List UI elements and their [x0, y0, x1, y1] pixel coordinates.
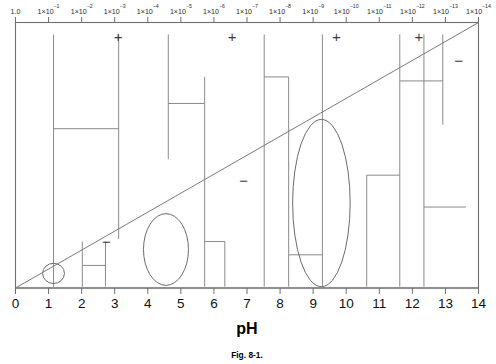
top-axis-tick-label: 1×10−14 [466, 3, 491, 16]
sign-mark: + [228, 28, 237, 45]
sign-mark: + [332, 28, 341, 45]
chart-canvas: 1.01×10−11×10−21×10−31×10−41×10−51×10−61… [0, 0, 496, 364]
bottom-axis-tick-label: 1 [45, 296, 53, 311]
bottom-axis-tick-label: 11 [372, 296, 386, 311]
top-axis-tick-label: 1×10−13 [433, 3, 458, 16]
bottom-axis-tick-label: 9 [309, 296, 317, 311]
top-axis-tick-label: 1×10−10 [334, 3, 359, 16]
pOH-reference-line [16, 23, 479, 289]
bottom-axis-tick-label: 0 [12, 296, 20, 311]
top-axis-tick-label: 1×10−7 [236, 3, 258, 16]
top-axis-tick-label: 1×10−1 [38, 3, 60, 16]
bottom-axis-tick-label: 4 [144, 296, 152, 311]
top-axis-tick-label: 1×10−5 [170, 3, 192, 16]
bottom-axis-tick-label: 13 [438, 296, 453, 311]
ph-scale-figure: 1.01×10−11×10−21×10−31×10−41×10−51×10−61… [0, 0, 496, 364]
blob-shapes [43, 119, 351, 286]
top-axis-tick-label: 1×10−11 [367, 3, 392, 16]
top-axis-tick-label: 1×10−4 [137, 3, 159, 16]
x-axis-title: pH [236, 320, 257, 337]
bottom-axis-tick-label: 7 [243, 296, 251, 311]
bottom-axis-tick-label: 6 [210, 296, 218, 311]
bottom-axis-tick-label: 8 [276, 296, 284, 311]
sign-mark: − [239, 172, 248, 189]
top-axis: 1.01×10−11×10−21×10−31×10−41×10−51×10−61… [11, 3, 491, 23]
bottom-axis-tick-label: 5 [177, 296, 185, 311]
bottom-axis-tick-label: 3 [111, 296, 119, 311]
top-axis-tick-label: 1.0 [11, 8, 21, 16]
bottom-axis-tick-label: 12 [405, 296, 420, 311]
bottom-axis: 01234567891011121314 [12, 288, 487, 311]
bottom-axis-tick-label: 10 [339, 296, 354, 311]
horizontal-connectors [54, 77, 466, 266]
top-axis-tick-label: 1×10−8 [269, 3, 291, 16]
sign-mark: − [102, 233, 111, 250]
medium-ellipse [143, 214, 188, 286]
top-axis-tick-label: 1×10−2 [71, 3, 93, 16]
sign-mark: − [454, 52, 463, 69]
top-axis-tick-label: 1×10−9 [302, 3, 324, 16]
top-axis-tick-label: 1×10−3 [104, 3, 126, 16]
top-axis-tick-label: 1×10−6 [203, 3, 225, 16]
sign-mark: + [114, 28, 123, 45]
sign-mark: + [415, 28, 424, 45]
figure-caption: Fig. 8-1. [231, 350, 263, 360]
top-axis-tick-label: 1×10−12 [400, 3, 425, 16]
vertical-segments [54, 34, 443, 286]
bottom-axis-tick-label: 2 [78, 296, 86, 311]
bottom-axis-tick-label: 14 [471, 296, 487, 311]
large-ellipse [293, 119, 351, 286]
